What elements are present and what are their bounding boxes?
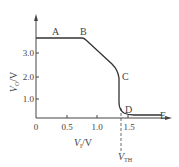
y-axis-label: VO/V <box>8 71 20 92</box>
x-tick-1-5: 1.5 <box>123 122 135 132</box>
point-d-label: D <box>125 104 132 115</box>
point-a-label: A <box>52 26 60 37</box>
transfer-curve <box>36 38 162 115</box>
x-tick-0: 0 <box>34 122 39 132</box>
transfer-characteristic-chart: 0 0.5 1.0 1.5 1.0 2.0 3.0 VO/V VI/V VTH … <box>0 0 179 167</box>
y-tick-2-0: 2.0 <box>23 72 35 82</box>
y-tick-1-0: 1.0 <box>23 94 35 104</box>
svg-text:VO/V: VO/V <box>8 71 20 92</box>
point-c-label: C <box>122 71 129 82</box>
vth-label: VTH <box>118 151 133 163</box>
point-e-label: E <box>160 110 166 121</box>
x-axis-label: VI/V <box>74 137 93 149</box>
x-tick-0-5: 0.5 <box>61 122 73 132</box>
x-tick-1-0: 1.0 <box>91 122 103 132</box>
y-axis-arrow-icon <box>34 14 38 21</box>
y-tick-3-0: 3.0 <box>23 48 35 58</box>
point-b-label: B <box>80 26 87 37</box>
